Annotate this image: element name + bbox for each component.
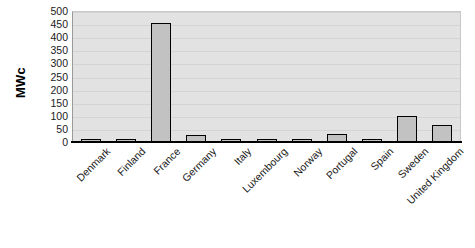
y-axis-tick-label: 400 <box>36 32 68 42</box>
x-axis-tick-label: Portugal <box>324 145 360 181</box>
bar[interactable] <box>432 125 452 142</box>
bar-series <box>73 12 460 142</box>
x-axis-tick-label: Finland <box>115 145 148 178</box>
bar-slot <box>425 12 460 142</box>
y-axis-title-label: MWc <box>13 67 28 98</box>
x-axis-tick-label: Germany <box>179 145 218 184</box>
bar-slot <box>319 12 354 142</box>
x-axis-tick-label: France <box>151 145 183 177</box>
bar[interactable] <box>151 23 171 142</box>
bar-slot <box>108 12 143 142</box>
y-axis-tick-label: 500 <box>36 6 68 16</box>
y-axis-tick-label: 0 <box>36 137 68 147</box>
y-axis-tick-label: 150 <box>36 98 68 108</box>
bar-slot <box>390 12 425 142</box>
x-axis-tick-label: Norway <box>291 145 325 179</box>
bar-slot <box>249 12 284 142</box>
x-axis-tick-labels: DenmarkFinlandFranceGermanyItalyLuxembou… <box>72 145 461 245</box>
x-axis-tick-label: Spain <box>368 145 395 172</box>
bar-slot <box>179 12 214 142</box>
y-axis-tick-label: 200 <box>36 85 68 95</box>
bar[interactable] <box>397 116 417 142</box>
bar-slot <box>284 12 319 142</box>
bar-chart: MWc 050100150200250300350400450500 Denma… <box>0 0 475 248</box>
y-axis-title: MWc <box>8 52 32 112</box>
y-axis-tick-label: 350 <box>36 45 68 55</box>
y-axis-tick-label: 100 <box>36 111 68 121</box>
plot-area <box>72 11 461 142</box>
y-axis-tick-label: 250 <box>36 72 68 82</box>
y-axis-tick-label: 50 <box>36 124 68 134</box>
y-axis-tick-label: 450 <box>36 19 68 29</box>
bar-slot <box>73 12 108 142</box>
bar-slot <box>355 12 390 142</box>
bar-slot <box>143 12 178 142</box>
bar-slot <box>214 12 249 142</box>
y-axis-tick-labels: 050100150200250300350400450500 <box>36 5 68 147</box>
x-axis-tick-label: Denmark <box>74 145 113 184</box>
x-axis-line <box>71 141 462 143</box>
x-axis-tick-label: Italy <box>232 145 254 167</box>
y-axis-tick-label: 300 <box>36 58 68 68</box>
